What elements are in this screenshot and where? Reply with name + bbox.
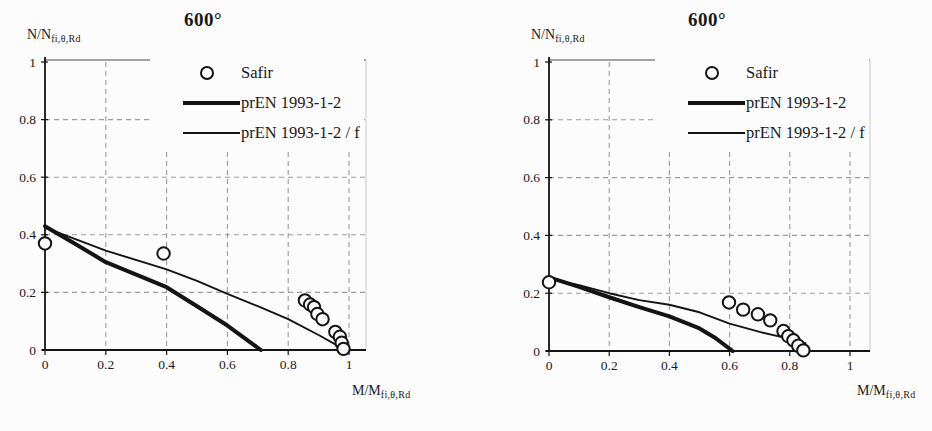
legend-item-safir: Safir: [150, 58, 364, 88]
x-tick-label: 0.2: [601, 358, 618, 373]
x-tick-label: 0.2: [97, 357, 114, 372]
y-tick-label: 0.8: [19, 112, 36, 127]
x-axis-title-main: M/M: [857, 383, 886, 398]
chart-left: 00.20.40.60.8100.20.40.60.81 N/Nfi,θ,Rd …: [0, 0, 466, 431]
legend-label: prEN 1993-1-2: [240, 93, 341, 113]
y-axis-title: N/Nfi,θ,Rd: [27, 27, 81, 44]
chart-right: 00.20.40.60.8100.20.40.60.81 N/Nfi,θ,Rd …: [466, 0, 932, 431]
x-axis-title-main: M/M: [352, 383, 381, 398]
x-axis-title-sub: fi,θ,Rd: [381, 389, 411, 400]
y-axis-title-main: N/N: [531, 27, 555, 42]
legend-label: prEN 1993-1-2: [745, 93, 846, 113]
legend-marker-cell: [150, 58, 240, 88]
y-tick-label: 0.8: [523, 112, 540, 127]
legend-marker-cell: [655, 58, 745, 88]
legend-label: prEN 1993-1-2 / f: [240, 123, 360, 143]
safir-point: [764, 314, 776, 326]
x-axis-title-sub: fi,θ,Rd: [886, 389, 916, 400]
y-tick-label: 0.4: [523, 228, 540, 243]
safir-point: [157, 247, 169, 259]
safir-point: [737, 303, 749, 315]
x-tick-label: 0.6: [219, 357, 236, 372]
legend-marker-cell: [655, 118, 745, 148]
chart-title: 600°: [184, 9, 222, 31]
x-tick-label: 0.4: [661, 358, 678, 373]
thick-line-marker-icon: [688, 101, 745, 106]
legend-marker-cell: [150, 118, 240, 148]
thin-line-marker-icon: [183, 132, 240, 134]
x-tick-label: 0.4: [158, 357, 175, 372]
y-tick-label: 0.6: [19, 170, 36, 185]
thick-line-marker-icon: [183, 101, 240, 106]
legend-label: Safir: [240, 63, 273, 83]
x-tick-label: 0.8: [781, 358, 798, 373]
legend: Safir prEN 1993-1-2 prEN 1993-1-2 / f: [655, 56, 869, 151]
y-tick-label: 1: [29, 55, 36, 70]
y-axis-title-sub: fi,θ,Rd: [51, 33, 81, 44]
legend: Safir prEN 1993-1-2 prEN 1993-1-2 / f: [150, 56, 364, 151]
open-circle-marker-icon: [200, 66, 214, 80]
x-axis-title: M/Mfi,θ,Rd: [857, 383, 915, 400]
y-axis-title-sub: fi,θ,Rd: [555, 33, 585, 44]
safir-point: [337, 343, 349, 355]
y-tick-label: 0: [29, 343, 36, 358]
y-tick-label: 0.2: [523, 286, 540, 301]
y-tick-label: 0.2: [19, 285, 36, 300]
legend-label: Safir: [745, 63, 778, 83]
thin-line-marker-icon: [688, 132, 745, 134]
safir-point: [39, 237, 51, 249]
y-tick-label: 0.6: [523, 170, 540, 185]
legend-marker-cell: [150, 88, 240, 118]
legend-item-safir: Safir: [655, 58, 869, 88]
x-tick-label: 0.8: [280, 357, 297, 372]
y-tick-label: 0.4: [19, 227, 36, 242]
y-tick-label: 0: [533, 344, 540, 359]
safir-point: [797, 344, 809, 356]
safir-point: [543, 276, 555, 288]
x-tick-label: 0: [546, 358, 553, 373]
y-axis-title-main: N/N: [27, 27, 51, 42]
series-line: [45, 226, 261, 350]
series-line: [45, 228, 343, 349]
x-tick-label: 0.6: [721, 358, 738, 373]
x-tick-label: 0: [42, 357, 49, 372]
chart-title: 600°: [688, 9, 726, 31]
open-circle-marker-icon: [705, 66, 719, 80]
y-axis-title: N/Nfi,θ,Rd: [531, 27, 585, 44]
legend-item-pren: prEN 1993-1-2: [150, 88, 364, 118]
legend-label: prEN 1993-1-2 / f: [745, 123, 865, 143]
legend-item-pren-f: prEN 1993-1-2 / f: [150, 118, 364, 148]
safir-point: [723, 296, 735, 308]
legend-item-pren-f: prEN 1993-1-2 / f: [655, 118, 869, 148]
safir-point: [752, 308, 764, 320]
legend-item-pren: prEN 1993-1-2: [655, 88, 869, 118]
safir-point: [316, 313, 328, 325]
x-tick-label: 1: [346, 357, 353, 372]
x-tick-label: 1: [847, 358, 854, 373]
figure-page: 00.20.40.60.8100.20.40.60.81 N/Nfi,θ,Rd …: [0, 0, 932, 431]
x-axis-title: M/Mfi,θ,Rd: [352, 383, 410, 400]
legend-marker-cell: [655, 88, 745, 118]
y-tick-label: 1: [533, 55, 540, 70]
